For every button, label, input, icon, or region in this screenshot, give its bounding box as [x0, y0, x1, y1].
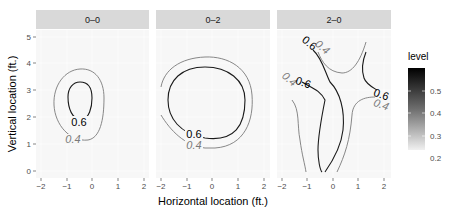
x-tick-label: −1: [182, 182, 192, 191]
contour-label: 0.4: [65, 133, 80, 145]
contour-label: 0.4: [186, 139, 201, 151]
y-tick-label: 5: [27, 33, 32, 42]
strip-label-2-0: 2–0: [326, 15, 341, 25]
x-tick-label: −1: [62, 182, 72, 191]
x-tick-label: 2: [142, 182, 147, 191]
y-tick-label: 0: [27, 167, 32, 176]
panel-bg: [156, 30, 270, 178]
x-tick-label: −2: [36, 182, 46, 191]
panel-0-0: 0–0 0.6 0.4: [36, 10, 149, 178]
x-tick-label: 2: [382, 182, 387, 191]
x-tick-label: 2: [262, 182, 267, 191]
y-tick-label: 4: [27, 59, 32, 68]
legend-tick: 0.2: [430, 154, 442, 163]
x-tick-label: 0: [210, 182, 215, 191]
strip-label-0-0: 0–0: [85, 15, 100, 25]
legend-tick: 0.4: [430, 109, 442, 118]
y-tick-label: 1: [27, 140, 32, 149]
contour-figure: 0–0 0.6 0.4 0–2 0.6 0.4 2–0: [0, 0, 456, 214]
legend-title: level: [408, 51, 429, 62]
panel-bg: [36, 30, 149, 178]
x-tick-label: −2: [277, 182, 287, 191]
x-axis-title: Horizontal location (ft.): [158, 195, 268, 207]
x-tick-label: −2: [156, 182, 166, 191]
colorbar: [408, 68, 425, 150]
y-axis-title: Vertical location (ft.): [6, 56, 18, 153]
x-tick-label: 0: [331, 182, 336, 191]
y-tick-label: 3: [27, 86, 32, 95]
legend-tick: 0.3: [430, 132, 442, 141]
x-tick-label: 1: [356, 182, 361, 191]
y-axis: 0 1 2 3 4 5 Vertical location (ft.): [6, 33, 36, 176]
strip-label-0-2: 0–2: [205, 15, 220, 25]
x-tick-label: 1: [116, 182, 121, 191]
x-tick-label: 1: [236, 182, 241, 191]
contour-label: 0.6: [71, 116, 86, 128]
x-tick-label: −1: [302, 182, 312, 191]
legend: level 0.5 0.4 0.3 0.2: [408, 51, 442, 163]
x-tick-label: 0: [90, 182, 95, 191]
x-axis: −2 −1 0 1 2 −2 −1 0 1 2 −2 −1 0 1 2 Hori…: [36, 178, 386, 207]
panel-0-2: 0–2 0.6 0.4: [156, 10, 270, 178]
y-tick-label: 2: [27, 113, 32, 122]
panel-2-0: 2–0 0.6 0.4 0.4 0.6 0.6 0.4: [277, 10, 391, 178]
legend-tick: 0.5: [430, 87, 442, 96]
